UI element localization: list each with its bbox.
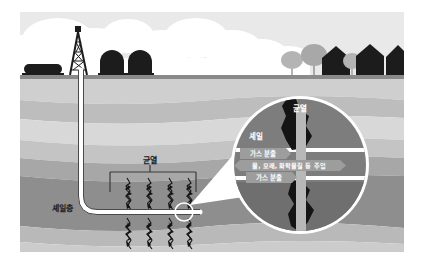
injection-chip: 물, 모래, 화학물질 등 주입: [234, 160, 346, 171]
tank-body: [128, 50, 152, 75]
callout-fracture-label: 균열: [293, 104, 307, 113]
diagram-frame: 균열 셰일 가스 분출 물, 모래, 화학물질 등 주입 가스 분출 균열 셰일…: [2, 12, 410, 252]
derrick-crown: [75, 26, 81, 32]
shale-gas-diagram: 균열 셰일 가스 분출 물, 모래, 화학물질 등 주입 가스 분출 균열 셰일…: [0, 0, 424, 271]
tank-base: [98, 73, 126, 75]
gas-out-upper-chip: 가스 분출: [240, 148, 291, 159]
tank-body: [24, 64, 62, 74]
gas-out-lower-chip: 가스 분출: [246, 172, 297, 183]
tank-base: [126, 73, 154, 75]
fracture-main-label: 균열: [143, 155, 157, 165]
gas-out-lower-label: 가스 분출: [256, 173, 282, 182]
shale-layer-label: 셰일층: [52, 203, 74, 213]
tank-platform: [22, 73, 64, 75]
diagram-canvas: 균열 셰일 가스 분출 물, 모래, 화학물질 등 주입 가스 분출 균열 셰일…: [0, 0, 424, 271]
tree-trunk: [291, 60, 293, 75]
tank-body: [100, 50, 124, 75]
tree-trunk: [351, 61, 353, 75]
tree-trunk: [313, 55, 315, 75]
injection-label: 물, 모래, 화학물질 등 주입: [252, 162, 325, 170]
gas-out-upper-label: 가스 분출: [250, 149, 276, 158]
callout-shale-label: 셰일: [249, 131, 263, 141]
ground-surface-line: [20, 75, 404, 79]
